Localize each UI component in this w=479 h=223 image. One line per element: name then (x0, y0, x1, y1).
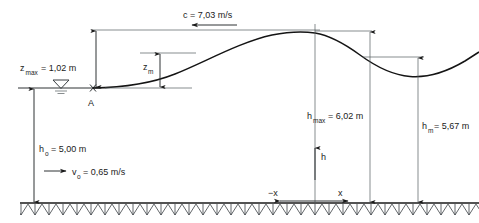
water-surface-curve (93, 32, 479, 88)
bed-hatching (20, 203, 479, 215)
x-axis-negative-label: −x (268, 188, 278, 198)
h0-subscript: o (45, 150, 49, 157)
hmax-label: h max = 6,02 m (307, 111, 363, 124)
celerity-annotation: c = 7,03 m/s (183, 10, 237, 25)
diagram-canvas: A z max = 1,02 m z m c = 7,03 m/s h o = … (0, 0, 479, 223)
hm-subscript: m (428, 127, 433, 134)
still-water-level (18, 80, 100, 94)
z-max-subscript: max (26, 69, 39, 76)
h0-label: h o = 5,00 m (39, 144, 86, 157)
hmax-symbol: h (307, 111, 312, 121)
hmax-value: = 6,02 m (328, 111, 363, 121)
hm-symbol: h (422, 121, 427, 131)
z-max-symbol: z (20, 63, 25, 73)
h-axis-label: h (321, 152, 326, 162)
celerity-label: c = 7,03 m/s (183, 10, 233, 20)
v0-annotation: v o = 0,65 m/s (44, 167, 126, 180)
hm-value: = 5,67 m (434, 121, 469, 131)
hmax-subscript: max (313, 117, 326, 124)
x-axis: x −x (268, 188, 348, 201)
hm-dimension (363, 57, 424, 202)
surge-wave-diagram: A z max = 1,02 m z m c = 7,03 m/s h o = … (0, 0, 479, 223)
channel-bed (20, 203, 479, 215)
v0-subscript: o (77, 173, 81, 180)
z-max-value: = 1,02 m (41, 63, 76, 73)
point-a-label: A (88, 98, 94, 108)
hm-label: h m = 5,67 m (422, 121, 469, 134)
h0-value: = 5,00 m (51, 144, 86, 154)
h-axis: h (315, 148, 326, 180)
v0-value: = 0,65 m/s (83, 167, 126, 177)
z-m-subscript: m (148, 68, 153, 75)
x-axis-positive-label: x (338, 188, 343, 198)
h0-symbol: h (39, 144, 44, 154)
z-max-dimension (92, 30, 320, 87)
z-m-label: z m (143, 62, 153, 75)
water-level-symbol-icon (53, 80, 69, 94)
z-max-label: z max = 1,02 m (20, 63, 76, 76)
